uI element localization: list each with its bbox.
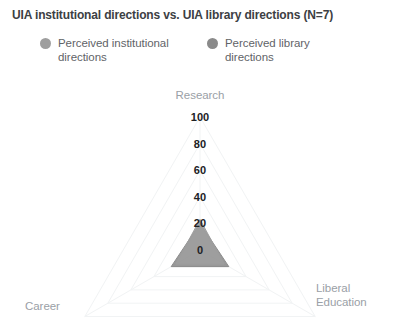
tick-label-80: 80 <box>194 138 206 150</box>
tick-label-100: 100 <box>191 111 210 123</box>
radar-chart-card: UIA institutional directions vs. UIA lib… <box>0 0 394 330</box>
axis-label-research: Research <box>176 88 225 102</box>
tick-label-60: 60 <box>194 164 206 176</box>
radar-plot-area: 0 20 40 60 80 100 Research Career Libera… <box>0 0 394 330</box>
axis-label-liberal-education: Liberal Education <box>316 281 367 309</box>
axis-label-career: Career <box>25 299 60 313</box>
tick-label-20: 20 <box>194 217 206 229</box>
tick-label-0: 0 <box>197 244 203 256</box>
tick-label-40: 40 <box>194 191 206 203</box>
